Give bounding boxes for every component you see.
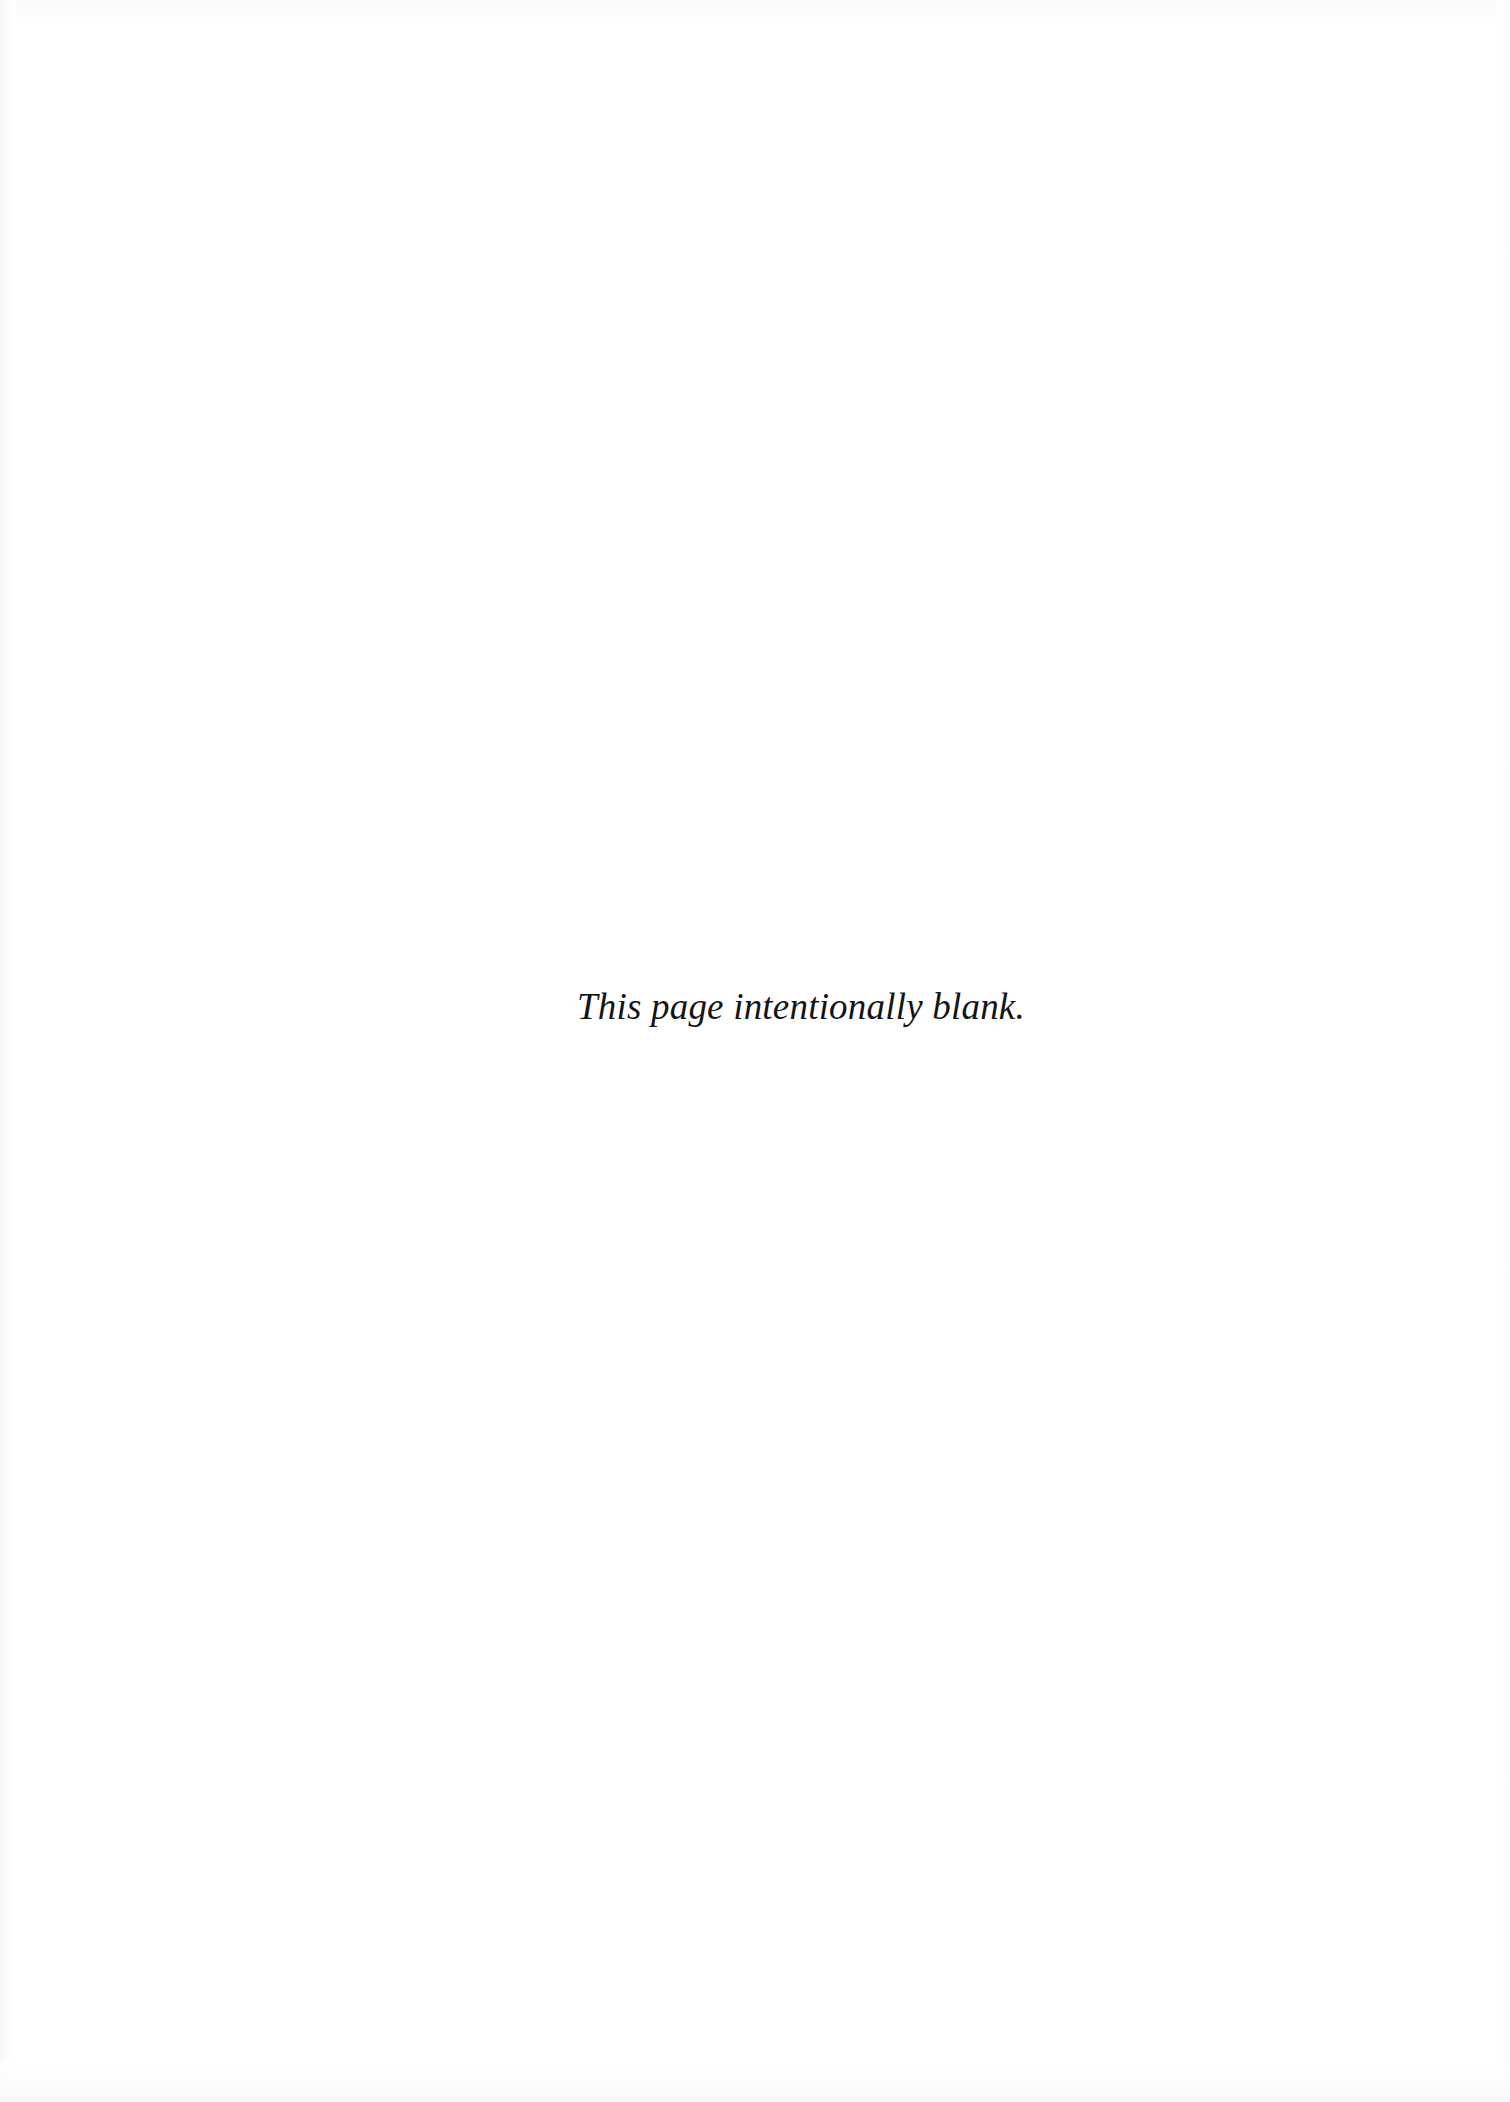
scan-edge-top-artifact xyxy=(0,0,1510,26)
scan-edge-right-artifact xyxy=(1496,0,1510,2102)
intentionally-blank-notice: This page intentionally blank. xyxy=(577,985,997,1029)
scanned-page: This page intentionally blank. xyxy=(0,0,1510,2102)
scan-edge-left-artifact xyxy=(0,0,16,2102)
scan-edge-bottom-artifact xyxy=(0,2062,1510,2102)
